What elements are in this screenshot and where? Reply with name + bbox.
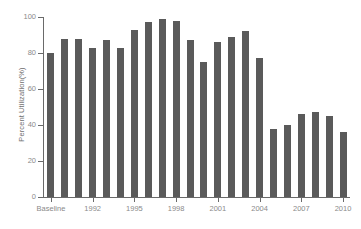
y-axis-tick [38, 197, 43, 198]
x-axis-tick [343, 198, 344, 202]
bar [270, 129, 277, 197]
bar [89, 48, 96, 197]
bar [61, 39, 68, 197]
x-axis-tick-label: 1995 [126, 204, 143, 213]
y-axis-tick-label-wrap: 0 [0, 193, 36, 201]
bar [200, 62, 207, 197]
bar [242, 31, 249, 197]
y-axis-tick-label: 60 [2, 85, 36, 93]
y-axis-tick-label: 80 [2, 49, 36, 57]
bar [47, 53, 54, 197]
bar [131, 30, 138, 197]
x-axis-tick [134, 198, 135, 202]
y-axis-tick-label-wrap: 20 [0, 157, 36, 165]
bar [228, 37, 235, 197]
bar [173, 21, 180, 197]
y-axis-tick [38, 89, 43, 90]
bar-chart: Percent Utilization(%) 100806040200 Base… [0, 0, 361, 229]
x-axis-tick [218, 198, 219, 202]
x-axis-tick [51, 198, 52, 202]
bar [75, 39, 82, 197]
bar [312, 112, 319, 197]
y-axis-tick-label: 40 [2, 121, 36, 129]
x-axis-tick [176, 198, 177, 202]
bars-layer [44, 17, 350, 197]
y-axis-tick [38, 161, 43, 162]
x-axis-tick [260, 198, 261, 202]
x-axis-tick-label: 2001 [210, 204, 227, 213]
bar [298, 114, 305, 197]
bar [340, 132, 347, 197]
x-axis-tick-label: 2004 [251, 204, 268, 213]
bar [117, 48, 124, 197]
y-axis-tick-label-wrap: 60 [0, 85, 36, 93]
y-axis-tick-label-wrap: 80 [0, 49, 36, 57]
x-axis-line [43, 197, 350, 198]
x-axis-tick-label: 2007 [293, 204, 310, 213]
bar [159, 19, 166, 197]
y-axis-tick-label: 20 [2, 157, 36, 165]
y-axis-tick-label: 0 [2, 193, 36, 201]
y-axis-tick-label-wrap: 40 [0, 121, 36, 129]
bar [145, 22, 152, 197]
bar [256, 58, 263, 197]
y-axis-tick [38, 53, 43, 54]
bar [326, 116, 333, 197]
x-axis-tick [93, 198, 94, 202]
y-axis-tick-label: 100 [2, 13, 36, 21]
bar [284, 125, 291, 197]
x-axis-tick-label: 2010 [335, 204, 352, 213]
x-axis-tick-label: Baseline [37, 204, 66, 213]
bar [103, 40, 110, 197]
y-axis-tick [38, 17, 43, 18]
bar [214, 42, 221, 197]
bar [187, 40, 194, 197]
y-axis-tick [38, 125, 43, 126]
y-axis-tick-label-wrap: 100 [0, 13, 36, 21]
x-axis-tick-label: 1992 [84, 204, 101, 213]
x-axis-tick [301, 198, 302, 202]
x-axis-tick-label: 1998 [168, 204, 185, 213]
